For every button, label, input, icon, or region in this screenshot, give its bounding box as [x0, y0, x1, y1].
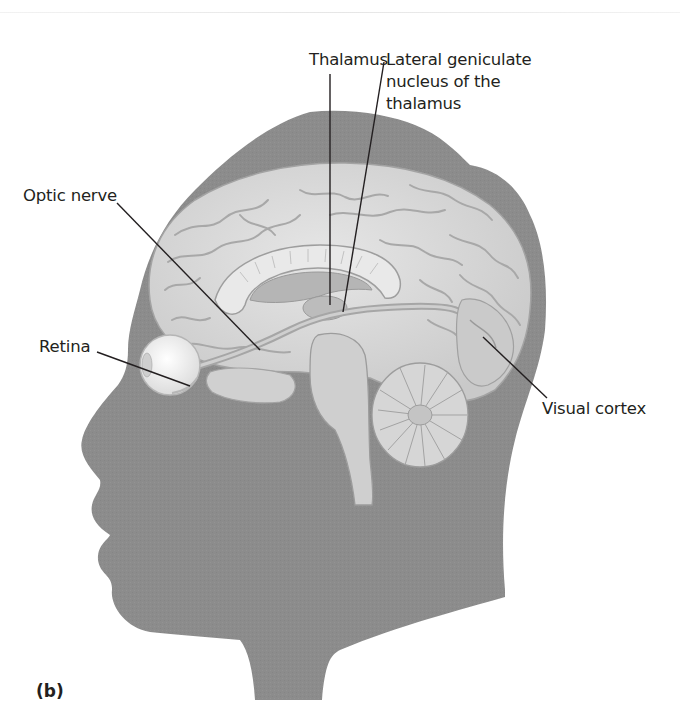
label-lgn-line1: Lateral geniculate [386, 50, 532, 70]
visual-pathway-figure: Thalamus Lateral geniculate nucleus of t… [0, 0, 680, 717]
head-illustration [0, 0, 680, 717]
label-visual-cortex: Visual cortex [542, 399, 646, 419]
label-lgn-line3: thalamus [386, 94, 461, 114]
panel-label: (b) [36, 681, 64, 701]
label-lgn-line2: nucleus of the [386, 72, 500, 92]
cerebellum [372, 363, 468, 467]
label-thalamus: Thalamus [309, 50, 388, 70]
label-retina: Retina [39, 337, 90, 357]
eyeball [140, 335, 200, 395]
label-optic-nerve: Optic nerve [23, 186, 117, 206]
